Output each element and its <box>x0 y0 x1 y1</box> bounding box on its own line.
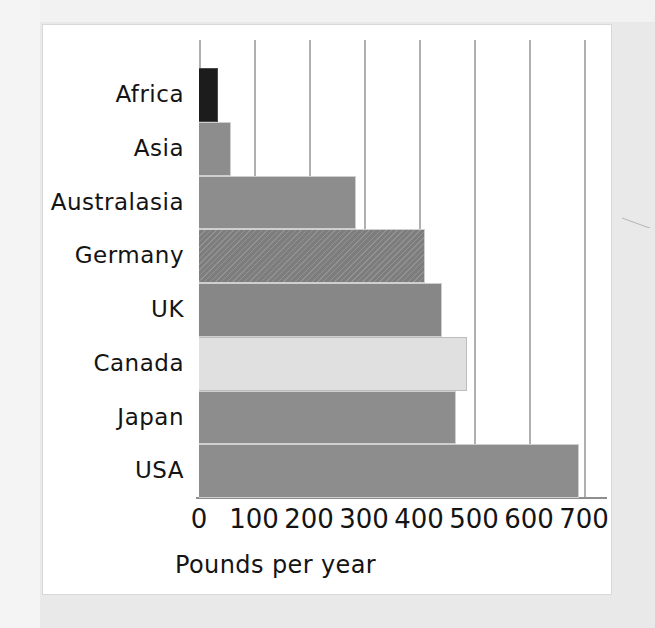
scan-artifact <box>622 204 655 228</box>
bar-japan <box>199 391 456 445</box>
y-label-usa: USA <box>20 444 192 498</box>
bar-row <box>199 444 609 498</box>
bar-row <box>199 283 609 337</box>
x-tick-400: 400 <box>389 503 449 535</box>
x-axis-title: Pounds per year <box>175 551 575 579</box>
x-tick-100: 100 <box>224 503 284 535</box>
y-label-australasia: Australasia <box>20 176 192 230</box>
y-label-asia: Asia <box>20 122 192 176</box>
x-tick-300: 300 <box>334 503 394 535</box>
bar-row <box>199 68 609 122</box>
bar-row <box>199 176 609 230</box>
bar-australasia <box>199 176 356 230</box>
page-background-top-strip <box>0 0 655 22</box>
bar-usa <box>199 444 579 498</box>
y-label-uk: UK <box>20 283 192 337</box>
y-label-germany: Germany <box>20 229 192 283</box>
bar-row <box>199 229 609 283</box>
bar-canada <box>199 337 467 391</box>
x-tick-200: 200 <box>279 503 339 535</box>
bar-row <box>199 337 609 391</box>
y-label-africa: Africa <box>20 68 192 122</box>
x-tick-500: 500 <box>444 503 504 535</box>
x-tick-0: 0 <box>169 503 229 535</box>
y-label-canada: Canada <box>20 337 192 391</box>
y-axis-category-labels: AfricaAsiaAustralasiaGermanyUKCanadaJapa… <box>20 68 192 498</box>
bar-asia <box>199 122 231 176</box>
bar-series <box>199 68 609 498</box>
bar-uk <box>199 283 442 337</box>
x-tick-600: 600 <box>499 503 559 535</box>
bar-germany <box>199 229 425 283</box>
y-label-japan: Japan <box>20 391 192 445</box>
bar-africa <box>199 68 218 122</box>
scan-artifact-stroke <box>622 216 655 228</box>
bar-row <box>199 122 609 176</box>
bar-row <box>199 391 609 445</box>
x-tick-700: 700 <box>554 503 614 535</box>
x-axis-tick-labels: 0100200300400500600700 <box>160 503 620 539</box>
